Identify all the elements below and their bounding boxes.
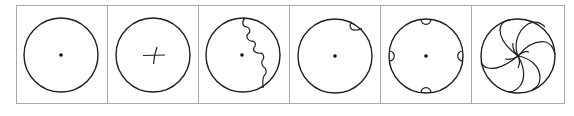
panel-2-circle-with-cross [116,18,190,92]
panel-1-circle-with-center-dot [24,18,98,92]
six-panel-circle-diagram [0,0,574,116]
panel-6-circle-with-spiral-arcs [481,19,555,93]
panel-5-circle-with-four-notches [389,19,463,93]
panel-4-circle-with-one-notch [298,19,372,93]
panel-3-circle-with-scalloped-line [206,18,280,92]
spiral-inner-stroke [505,56,518,59]
notch-right [458,51,463,61]
spiral-arc [500,20,518,57]
spiral-arc [518,42,555,56]
center-dot [333,54,337,58]
center-dot [59,53,63,57]
spiral-arc [481,56,518,68]
notch-top [421,19,431,24]
center-dot [424,54,428,58]
spiral-inner-stroke [518,52,529,56]
notch-bottom [421,88,431,93]
spiral-inner-stroke [518,56,520,68]
center-dot [240,53,244,57]
notch-left [389,51,394,61]
scalloped-line [243,18,266,88]
diagram-frame [17,6,565,104]
